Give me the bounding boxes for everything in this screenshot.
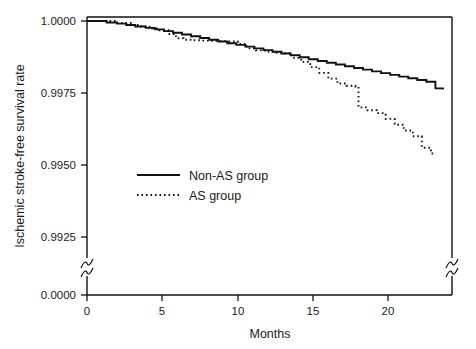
axis-break-icon-left-top [81,259,93,268]
x-tick-label-5: 5 [159,305,165,317]
x-axis-ticks [87,295,388,301]
series-line-non-as-group [87,21,443,90]
legend-label-non-as-group: Non-AS group [189,169,268,183]
survival-curve-chart: 1.0000 0.9975 0.9950 0.9925 0.0000 0 5 1… [0,0,476,349]
y-tick-label-1-0000: 1.0000 [41,15,76,27]
x-tick-label-10: 10 [232,305,245,317]
y-tick-label-0-9950: 0.9950 [41,159,76,171]
chart-page: 1.0000 0.9975 0.9950 0.9925 0.0000 0 5 1… [0,0,476,349]
axis-break-marks [81,259,458,277]
y-axis-title: Ischemic stroke-free survival rate [13,64,27,247]
legend-label-as-group: AS group [189,189,241,203]
y-tick-label-0-0000: 0.0000 [41,289,76,301]
y-tick-label-0-9975: 0.9975 [41,87,76,99]
x-tick-label-20: 20 [382,305,395,317]
axis-break-icon-left-bottom [81,268,93,277]
y-axis-ticks [81,21,87,295]
x-axis-title: Months [250,327,291,341]
x-tick-label-0: 0 [84,305,90,317]
series-line-as-group [87,21,434,155]
plot-frame [87,17,452,295]
axis-break-icon-right-bottom [446,268,458,277]
axis-break-icon-right-top [446,259,458,268]
y-tick-label-0-9925: 0.9925 [41,231,76,243]
chart-legend: Non-AS group AS group [137,169,268,203]
x-tick-label-15: 15 [307,305,320,317]
data-series-group [87,21,443,155]
